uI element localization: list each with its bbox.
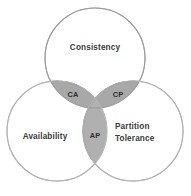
venn-diagram-svg: Consistency Availability Partition Toler…: [0, 0, 191, 196]
cap-theorem-venn-diagram: Consistency Availability Partition Toler…: [0, 0, 191, 196]
label-partition-tolerance-line2: Tolerance: [115, 134, 155, 143]
label-cp: CP: [113, 90, 124, 99]
label-ca: CA: [67, 90, 79, 99]
label-availability: Availability: [23, 132, 68, 141]
label-ap: AP: [90, 131, 101, 140]
label-partition-tolerance-line1: Partition: [115, 122, 150, 131]
label-consistency: Consistency: [70, 43, 121, 52]
